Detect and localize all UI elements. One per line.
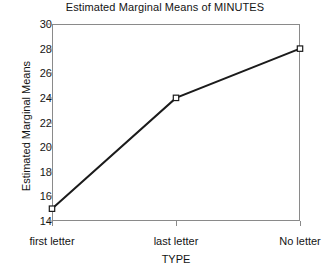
y-tick-mark bbox=[47, 73, 52, 74]
x-tick-label: first letter bbox=[29, 235, 74, 247]
x-tick-label: last letter bbox=[154, 235, 199, 247]
y-tick-label: 22 bbox=[6, 117, 52, 129]
chart-container: Estimated Marginal Means of MINUTES Esti… bbox=[0, 0, 330, 271]
y-tick-label: 30 bbox=[6, 18, 52, 30]
x-axis-title: TYPE bbox=[52, 253, 300, 265]
x-tick-mark bbox=[52, 221, 53, 226]
y-tick-mark bbox=[47, 122, 52, 123]
y-tick-mark bbox=[47, 97, 52, 98]
y-tick-label: 20 bbox=[6, 141, 52, 153]
plot-area bbox=[52, 24, 300, 221]
y-tick-label: 14 bbox=[6, 215, 52, 227]
y-tick-mark bbox=[47, 48, 52, 49]
y-axis-ticks: 141618202224262830 bbox=[0, 0, 52, 271]
x-tick-label: No letter bbox=[279, 235, 321, 247]
y-tick-mark bbox=[47, 171, 52, 172]
x-tick-mark bbox=[176, 221, 177, 226]
y-tick-label: 26 bbox=[6, 67, 52, 79]
y-tick-label: 18 bbox=[6, 166, 52, 178]
y-tick-label: 28 bbox=[6, 43, 52, 55]
x-tick-mark bbox=[300, 221, 301, 226]
y-tick-label: 16 bbox=[6, 190, 52, 202]
y-tick-label: 24 bbox=[6, 92, 52, 104]
y-tick-mark bbox=[47, 147, 52, 148]
y-tick-mark bbox=[47, 24, 52, 25]
y-tick-mark bbox=[47, 196, 52, 197]
